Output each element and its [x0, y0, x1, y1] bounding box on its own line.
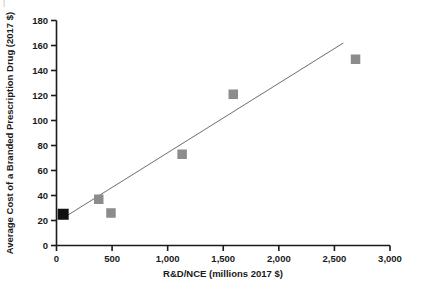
data-point-marker: [58, 209, 69, 220]
data-point-marker: [177, 150, 187, 160]
artifact-mark-top-left: |: [3, 0, 5, 7]
y-tick-label: 180: [32, 15, 48, 26]
trendline-segment: [63, 43, 343, 218]
y-tick-label: 0: [43, 240, 48, 251]
data-point-marker: [94, 195, 104, 205]
x-tick-label: 2,500: [323, 253, 347, 264]
y-tick-label: 80: [37, 140, 48, 151]
x-tick-label: 2,000: [267, 253, 291, 264]
y-tick-label: 20: [37, 215, 48, 226]
data-point-marker: [351, 55, 361, 65]
data-markers: [58, 55, 361, 220]
y-tick-label: 140: [32, 65, 48, 76]
y-tick-label: 40: [37, 190, 48, 201]
x-axis-title: R&D/NCE (millions 2017 $): [163, 268, 283, 279]
x-tick-label: 0: [54, 253, 59, 264]
trendline: [63, 43, 343, 218]
y-tick-label: 100: [32, 115, 48, 126]
y-tick-label: 160: [32, 40, 48, 51]
scatter-plot: 020406080100120140160180 05001,0001,5002…: [0, 0, 446, 285]
y-axis-title: Average Cost of a Branded Prescription D…: [4, 12, 15, 255]
y-axis-ticks: 020406080100120140160180: [32, 15, 56, 251]
data-point-marker: [229, 90, 239, 100]
x-tick-label: 500: [104, 253, 120, 264]
y-tick-label: 60: [37, 165, 48, 176]
x-axis-ticks: 05001,0001,5002,0002,5003,000: [54, 246, 402, 264]
data-point-marker: [106, 208, 116, 218]
x-tick-label: 3,000: [378, 253, 402, 264]
x-tick-label: 1,000: [156, 253, 180, 264]
y-tick-label: 120: [32, 90, 48, 101]
x-tick-label: 1,500: [211, 253, 235, 264]
chart-container: 020406080100120140160180 05001,0001,5002…: [0, 0, 446, 285]
